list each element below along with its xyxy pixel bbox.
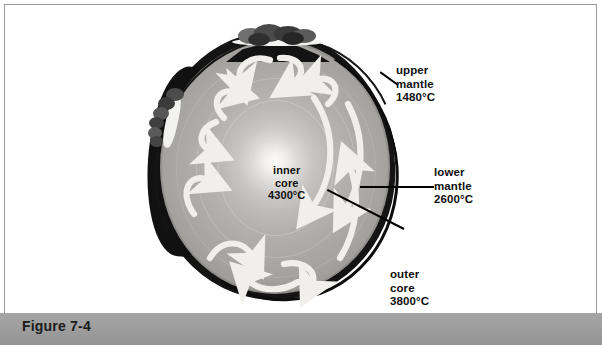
convection-arrow xyxy=(239,58,270,80)
convection-arrow xyxy=(187,178,208,214)
label-outer-core: outer core 3800°C xyxy=(390,268,429,309)
label-inner-core: inner core 4300°C xyxy=(268,164,305,202)
label-upper-mantle: upper mantle 1480°C xyxy=(396,64,435,105)
convection-arrow xyxy=(201,122,216,150)
label-lower-mantle: lower mantle 2600°C xyxy=(434,166,473,207)
leader-line-lower-mantle xyxy=(360,186,434,188)
figure-stage: upper mantle 1480°C lower mantle 2600°C … xyxy=(0,0,602,313)
convection-arrow xyxy=(248,280,298,289)
convection-arrow xyxy=(280,58,301,84)
figure-caption-text: Figure 7-4 xyxy=(22,318,91,334)
figure-page: upper mantle 1480°C lower mantle 2600°C … xyxy=(0,0,602,345)
convection-arrow xyxy=(210,244,252,259)
convection-arrow xyxy=(217,91,234,118)
